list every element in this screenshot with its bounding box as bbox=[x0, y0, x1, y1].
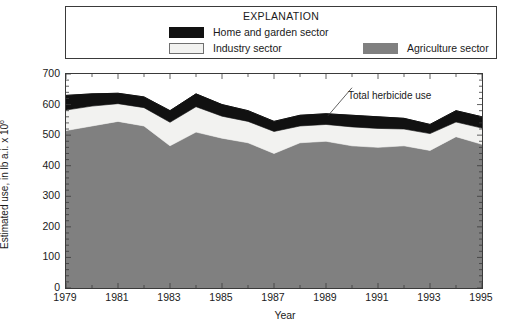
x-tick-label-1995: 1995 bbox=[469, 291, 492, 303]
x-axis-title-text: Year bbox=[274, 309, 295, 321]
x-tick-label-1989: 1989 bbox=[313, 291, 336, 303]
legend-box: EXPLANATION Home and garden sector Indus… bbox=[65, 6, 497, 59]
legend-title: EXPLANATION bbox=[66, 10, 496, 22]
x-tick-label-1983: 1983 bbox=[157, 291, 180, 303]
plot-area bbox=[65, 73, 483, 289]
stacked-area-plot bbox=[66, 74, 482, 288]
x-tick-label-1993: 1993 bbox=[417, 291, 440, 303]
annotation-total-herbicide-use: Total herbicide use bbox=[348, 90, 431, 101]
legend-item-industry: Industry sector bbox=[169, 42, 282, 54]
legend-item-agriculture: Agriculture sector bbox=[363, 42, 489, 54]
y-tick-label-600: 600 bbox=[42, 98, 60, 110]
x-axis-title: Year bbox=[0, 309, 518, 321]
legend-swatch-agriculture bbox=[363, 43, 398, 54]
y-tick-label-700: 700 bbox=[42, 67, 60, 79]
y-tick-label-500: 500 bbox=[42, 128, 60, 140]
legend-label-industry: Industry sector bbox=[213, 42, 282, 54]
legend-label-home-and-garden: Home and garden sector bbox=[213, 26, 329, 38]
y-tick-label-300: 300 bbox=[42, 189, 60, 201]
legend-item-home-and-garden: Home and garden sector bbox=[169, 26, 329, 38]
x-tick-label-1981: 1981 bbox=[105, 291, 128, 303]
legend-swatch-industry bbox=[169, 43, 204, 54]
y-tick-label-400: 400 bbox=[42, 159, 60, 171]
x-tick-label-1985: 1985 bbox=[209, 291, 232, 303]
x-tick-label-1979: 1979 bbox=[53, 291, 76, 303]
y-tick-label-100: 100 bbox=[42, 250, 60, 262]
x-tick-label-1987: 1987 bbox=[261, 291, 284, 303]
legend-label-agriculture: Agriculture sector bbox=[407, 42, 489, 54]
legend-swatch-home-and-garden bbox=[169, 27, 204, 38]
x-tick-label-1991: 1991 bbox=[365, 291, 388, 303]
chart-root: EXPLANATION Home and garden sector Indus… bbox=[0, 0, 518, 331]
y-axis-tick-labels: 0100200300400500600700 bbox=[0, 0, 65, 331]
y-tick-label-200: 200 bbox=[42, 220, 60, 232]
